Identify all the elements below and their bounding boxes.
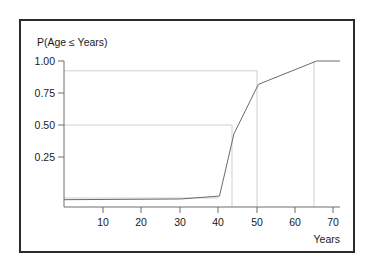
y-tick-label-025: 0.25	[35, 151, 56, 163]
reference-lines	[64, 61, 314, 207]
x-tick-label-20: 20	[135, 216, 147, 228]
cdf-chart: P(Age ≤ Years) 1.00 0.75 0.50 0.25	[0, 0, 371, 270]
x-tick-labels: 10 20 30 40 50 60 70	[97, 216, 339, 228]
x-axis	[64, 207, 340, 213]
y-tick-label-075: 0.75	[35, 87, 56, 99]
y-axis-title: P(Age ≤ Years)	[37, 36, 108, 48]
x-tick-label-30: 30	[174, 216, 186, 228]
x-tick-label-70: 70	[327, 216, 339, 228]
y-tick-labels: 1.00 0.75 0.50 0.25	[35, 55, 56, 163]
y-tick-label-050: 0.50	[35, 119, 56, 131]
x-tick-label-50: 50	[251, 216, 263, 228]
cdf-curve	[64, 61, 340, 200]
x-tick-label-60: 60	[289, 216, 301, 228]
x-tick-label-10: 10	[97, 216, 109, 228]
y-axis	[58, 61, 64, 207]
x-axis-title: Years	[314, 233, 340, 245]
x-tick-label-40: 40	[212, 216, 224, 228]
y-tick-label-100: 1.00	[35, 55, 56, 67]
